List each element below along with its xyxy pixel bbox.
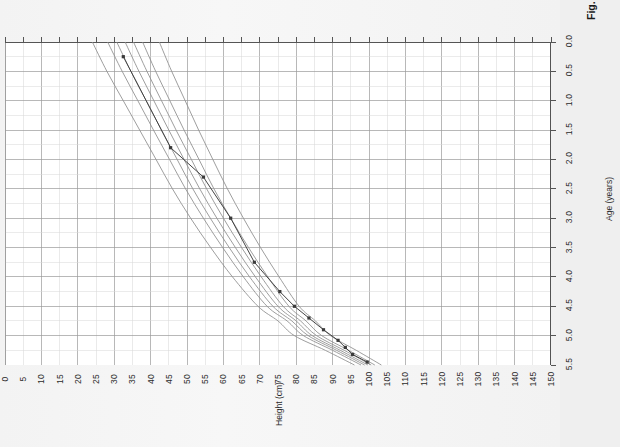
centile-curve (108, 42, 361, 365)
patient-data-point (278, 290, 281, 293)
patient-data-point (122, 55, 125, 58)
height-tick-label: 125 (455, 368, 465, 390)
height-tick-label: 55 (200, 368, 210, 390)
patient-data-point (293, 305, 296, 308)
age-tick-label: 3.0 (564, 207, 574, 227)
height-tick-label: 80 (291, 368, 301, 390)
height-tick-label: 105 (382, 368, 392, 390)
curves-layer (5, 42, 551, 365)
growth-chart-figure (5, 42, 551, 365)
height-tick-label: 145 (528, 368, 538, 390)
patient-data-point (366, 360, 369, 363)
height-tick-label: 135 (491, 368, 501, 390)
patient-data-point (307, 316, 310, 319)
patient-data-point (169, 146, 172, 149)
height-tick-label: 45 (164, 368, 174, 390)
height-tick-label: 110 (400, 368, 410, 390)
height-tick-label: 115 (419, 368, 429, 390)
height-tick-label: 0 (0, 368, 10, 390)
patient-data-point (344, 346, 347, 349)
figure-number: Fig. 2.55 (585, 0, 597, 20)
age-tick-label: 3.5 (564, 237, 574, 257)
patient-growth-line (123, 57, 367, 362)
height-tick-label: 50 (182, 368, 192, 390)
height-tick-label: 65 (237, 368, 247, 390)
height-tick-label: 70 (255, 368, 265, 390)
age-tick-label: 1.5 (564, 119, 574, 139)
plot-area (5, 42, 551, 365)
figure-page: 0510152025303540455055606570758085909510… (0, 0, 620, 447)
height-tick-label: 5 (18, 368, 28, 390)
height-tick-label: 10 (36, 368, 46, 390)
height-tick-label: 15 (55, 368, 65, 390)
centile-curve (117, 42, 365, 365)
age-tick-label: 0.0 (564, 31, 574, 51)
age-tick-label: 0.5 (564, 60, 574, 80)
age-tick-label: 4.5 (564, 295, 574, 315)
centile-curve (133, 42, 371, 365)
height-tick-label: 130 (473, 368, 483, 390)
age-tick-label: 5.5 (564, 354, 574, 374)
height-tick-label: 40 (146, 368, 156, 390)
age-axis-title: Age (years) (604, 171, 614, 227)
height-tick-label: 150 (546, 368, 556, 390)
patient-data-point (253, 261, 256, 264)
height-tick-label: 140 (510, 368, 520, 390)
height-tick-label: 120 (437, 368, 447, 390)
patient-data-point (336, 339, 339, 342)
age-tick-label: 1.0 (564, 90, 574, 110)
patient-data-point (322, 328, 325, 331)
age-tick-label: 2.0 (564, 148, 574, 168)
height-tick-label: 20 (73, 368, 83, 390)
centile-curve (92, 42, 354, 365)
height-tick-label: 100 (364, 368, 374, 390)
patient-data-point (202, 175, 205, 178)
height-tick-label: 30 (109, 368, 119, 390)
height-axis-title: Height (cm) (274, 373, 284, 435)
age-tick-label: 5.0 (564, 325, 574, 345)
centile-curve (159, 42, 381, 365)
height-tick-label: 85 (309, 368, 319, 390)
patient-data-point (229, 217, 232, 220)
height-tick-label: 35 (127, 368, 137, 390)
height-tick-label: 95 (346, 368, 356, 390)
height-tick-label: 60 (218, 368, 228, 390)
height-tick-label: 90 (328, 368, 338, 390)
centile-curve (125, 42, 368, 365)
age-tick-label: 2.5 (564, 178, 574, 198)
centile-curve (143, 42, 375, 365)
age-tick-label: 4.0 (564, 266, 574, 286)
patient-data-point (351, 353, 354, 356)
figure-caption: Fig. 2.55 Failure to grow secondary to n… (585, 0, 598, 20)
height-tick-label: 25 (91, 368, 101, 390)
